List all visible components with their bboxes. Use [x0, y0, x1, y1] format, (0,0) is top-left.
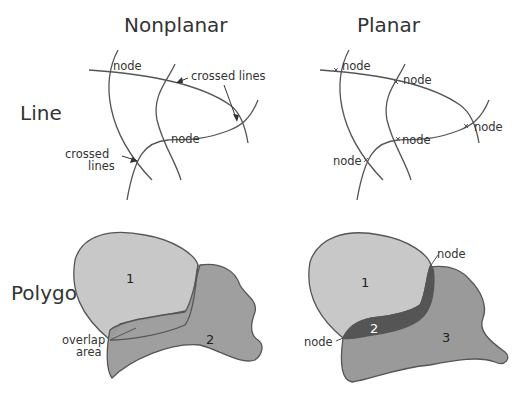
planar-node-label-4: node: [402, 133, 431, 147]
planar-polygon-node-label-top: node: [437, 247, 466, 261]
nonplanar-polygon-label-1: 1: [126, 271, 134, 286]
planar-polygon-label-2: 2: [370, 321, 378, 336]
planar-polygon-label-3: 3: [442, 330, 450, 345]
pointer-arrows: [122, 77, 239, 163]
planar-node-label-1: node: [342, 59, 371, 73]
planar-polygon-node-label-left: node: [304, 335, 333, 349]
nonplanar-polygons: [74, 232, 262, 378]
planar-polygon-label-1: 1: [361, 275, 369, 290]
nonplanar-node-label-top: node: [113, 59, 142, 73]
planar-polygons: [309, 233, 508, 382]
planar-node-label-5: node: [333, 154, 362, 168]
overlap-area-label-2: area: [76, 345, 102, 359]
nonplanar-polygon-label-2: 2: [206, 332, 214, 347]
column-header-nonplanar: Nonplanar: [124, 13, 228, 37]
planar-node-label-3: node: [474, 120, 503, 134]
planar-node-markers: [334, 68, 468, 162]
planar-node-label-2: node: [403, 73, 432, 87]
nonplanar-node-label-mid: node: [171, 132, 200, 146]
crossed-lines-label-left-2: lines: [88, 159, 115, 173]
row-label-line: Line: [20, 101, 62, 125]
planar-nonplanar-diagram: Nonplanar Planar Line Polygon node node …: [0, 0, 521, 398]
crossed-lines-label-right: crossed lines: [191, 69, 266, 83]
column-header-planar: Planar: [357, 13, 421, 37]
